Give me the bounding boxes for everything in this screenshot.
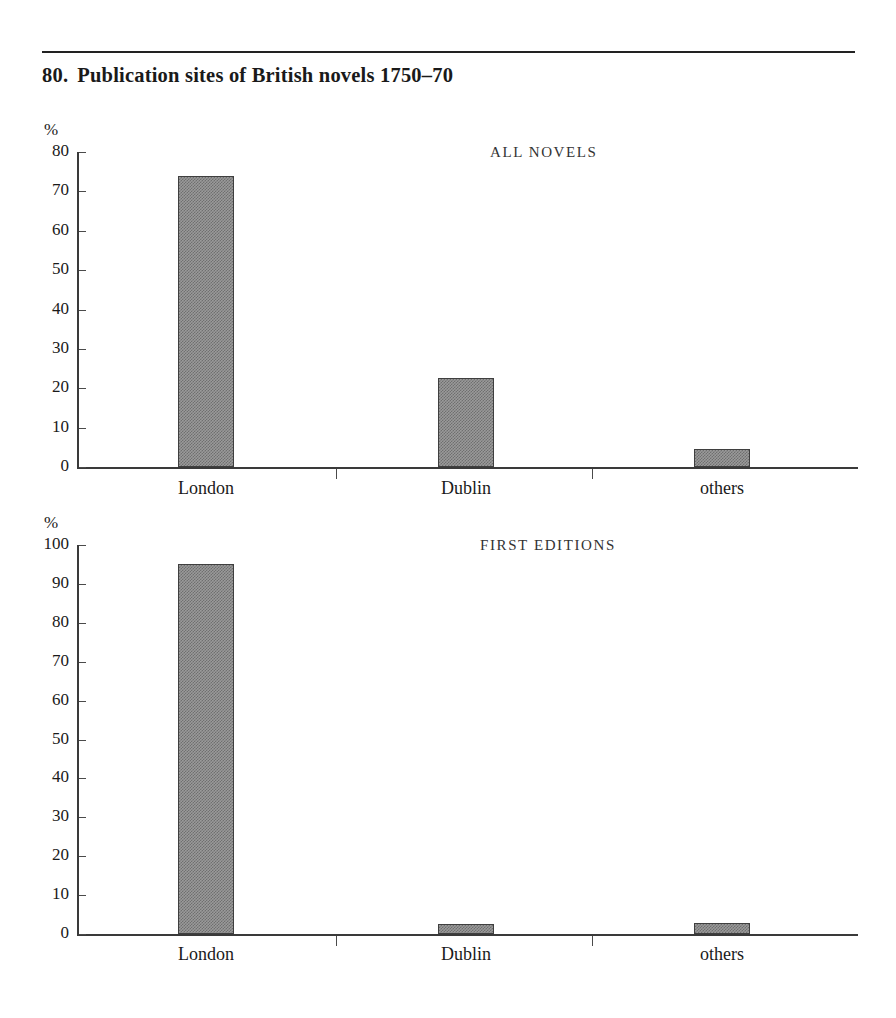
x-axis-category-label: London [116, 944, 296, 965]
y-axis-tick [79, 740, 86, 741]
y-axis-tick [79, 895, 86, 896]
y-axis-tick [79, 584, 86, 585]
bar-london [178, 564, 234, 934]
x-axis-tick [336, 936, 337, 946]
y-axis-tick-label: 70 [11, 651, 69, 671]
chart-caption: FIRST EDITIONS [480, 537, 616, 554]
x-axis-category-label: Dublin [376, 944, 556, 965]
chart-first-editions: %FIRST EDITIONS0102030405060708090100Lon… [0, 0, 896, 1018]
y-axis-tick-label: 90 [11, 573, 69, 593]
y-axis-tick-label: 10 [11, 884, 69, 904]
y-axis-tick [79, 623, 86, 624]
x-axis-line [77, 934, 858, 936]
x-axis-category-label: others [632, 944, 812, 965]
y-axis-tick-label: 20 [11, 845, 69, 865]
y-axis-tick [79, 856, 86, 857]
y-axis-tick [79, 701, 86, 702]
y-axis-tick-label: 40 [11, 767, 69, 787]
y-axis-tick-label: 50 [11, 729, 69, 749]
y-axis-tick [79, 545, 86, 546]
y-axis-tick [79, 778, 86, 779]
y-axis-unit-label: % [44, 513, 58, 533]
y-axis-tick-label: 0 [11, 923, 69, 943]
y-axis-tick-label: 80 [11, 612, 69, 632]
y-axis-tick-label: 100 [11, 534, 69, 554]
figure-page: 80.Publication sites of British novels 1… [0, 0, 896, 1018]
y-axis-tick-label: 60 [11, 690, 69, 710]
y-axis-tick [79, 934, 86, 935]
x-axis-tick [592, 936, 593, 946]
y-axis-tick [79, 817, 86, 818]
bar-others [694, 923, 750, 934]
y-axis-tick-label: 30 [11, 806, 69, 826]
bar-dublin [438, 924, 494, 934]
y-axis-tick [79, 662, 86, 663]
